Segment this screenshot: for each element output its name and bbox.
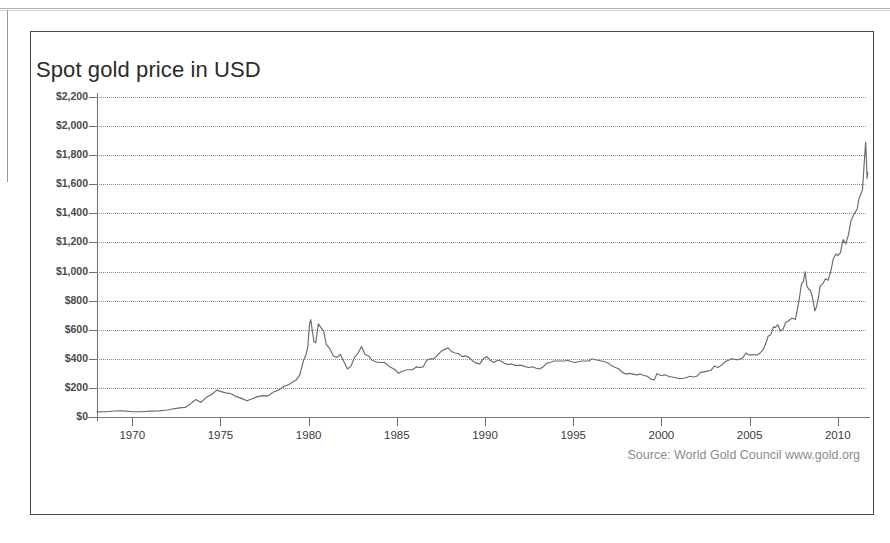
x-axis-tick-label: 1975: [190, 429, 250, 441]
x-axis-tick-mark: [220, 417, 221, 426]
page-left-margin-rule: [7, 10, 8, 182]
y-axis-tick-mark: [89, 97, 97, 98]
x-axis-tick-mark: [309, 417, 310, 426]
y-axis-tick-label: $1,600: [32, 177, 88, 189]
x-axis-tick-label: 1990: [455, 429, 515, 441]
y-axis-tick-mark: [89, 155, 97, 156]
y-axis-tick-label: $1,800: [32, 148, 88, 160]
x-axis-tick-mark: [132, 417, 133, 426]
y-axis-tick-label: $2,000: [32, 119, 88, 131]
y-axis-tick-mark: [89, 184, 97, 185]
y-axis-tick-mark: [89, 359, 97, 360]
y-axis-tick-label: $2,200: [32, 90, 88, 102]
y-axis-tick-label-group: $2,200$2,000$1,800$1,600$1,400$1,200$1,0…: [32, 0, 88, 543]
x-axis-tick-label: 1980: [279, 429, 339, 441]
page-secondary-rule: [0, 10, 890, 11]
y-axis-tick-label: $1,200: [32, 235, 88, 247]
source-attribution: Source: World Gold Council www.gold.org: [470, 448, 860, 462]
gridline: [97, 417, 866, 418]
x-axis-tick-label: 2000: [631, 429, 691, 441]
gold-price-line-series: [97, 97, 866, 417]
y-axis-tick-mark: [89, 417, 97, 418]
x-axis-tick-mark: [573, 417, 574, 426]
y-axis-tick-mark: [89, 388, 97, 389]
x-axis-tick-label: 2010: [808, 429, 868, 441]
x-axis-tick-label: 1970: [102, 429, 162, 441]
x-axis-tick-mark: [750, 417, 751, 426]
y-axis-tick-label: $1,400: [32, 206, 88, 218]
y-axis-tick-mark: [89, 272, 97, 273]
chart-plot-area: [97, 97, 866, 417]
y-axis-tick-mark: [89, 242, 97, 243]
y-axis-tick-label: $1,000: [32, 265, 88, 277]
gold-price-polyline: [97, 142, 868, 412]
x-axis-tick-label: 2005: [720, 429, 780, 441]
x-axis-tick-mark: [661, 417, 662, 426]
y-axis-tick-label: $800: [32, 294, 88, 306]
x-axis-tick-mark: [838, 417, 839, 426]
y-axis-tick-label: $600: [32, 323, 88, 335]
x-axis-tick-label: 1995: [543, 429, 603, 441]
x-axis-tick-mark: [397, 417, 398, 426]
x-axis-tick-mark: [485, 417, 486, 426]
y-axis-tick-label: $0: [32, 410, 88, 422]
y-axis-tick-mark: [89, 301, 97, 302]
y-axis-tick-label: $200: [32, 381, 88, 393]
y-axis-tick-mark: [89, 126, 97, 127]
y-axis-tick-mark: [89, 213, 97, 214]
y-axis-tick-label: $400: [32, 352, 88, 364]
page-top-rule: [0, 8, 890, 9]
y-axis-tick-mark: [89, 330, 97, 331]
x-axis-tick-label: 1985: [367, 429, 427, 441]
